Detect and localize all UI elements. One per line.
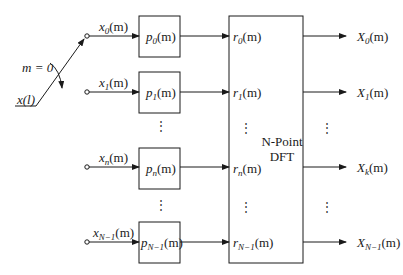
output-label-N-1: XN−1(m) (357, 236, 400, 254)
ellipsis-outputs-upper: ⋮ (321, 126, 327, 130)
switch-contact-n (85, 165, 89, 169)
ellipsis-filters-upper: ⋮ (155, 124, 161, 128)
dft-input-label-n: rn(m) (233, 162, 261, 180)
input-signal-label: x(l) (17, 93, 35, 106)
switch-contact-N-1 (85, 240, 89, 244)
filter-label-1: p1(m) (146, 86, 176, 104)
ellipsis-filters-lower: ⋮ (155, 203, 161, 207)
ellipsis-outputs-lower: ⋮ (321, 205, 327, 209)
dft-input-label-1: r1(m) (233, 86, 261, 104)
switch-position-label: m = 0 (22, 61, 53, 74)
diagram-canvas (0, 0, 403, 275)
branch-input-label-n: xn(m) (99, 151, 128, 169)
filter-label-n: pn(m) (146, 162, 176, 180)
branch-input-label-N-1: xN−1(m) (93, 226, 134, 244)
switch-contact-0 (85, 34, 89, 38)
branch-input-label-1: x1(m) (99, 76, 128, 94)
dft-title-line1: N-Point (252, 134, 312, 149)
filter-label-N-1: pN−1(m) (141, 236, 183, 254)
output-label-1: X1(m) (357, 86, 388, 104)
filter-label-0: p0(m) (146, 30, 176, 48)
branch-input-label-0: x0(m) (99, 20, 128, 38)
switch-contact-1 (85, 90, 89, 94)
ellipsis-dft-lower: ⋮ (240, 205, 246, 209)
output-label-k: Xk(m) (357, 161, 388, 179)
dft-input-label-N-1: rN−1(m) (233, 236, 273, 254)
dft-block-title: N-Point DFT (252, 134, 312, 164)
ellipsis-dft-upper: ⋮ (240, 126, 246, 130)
dft-input-label-0: r0(m) (233, 30, 261, 48)
output-label-0: X0(m) (357, 30, 388, 48)
dft-title-line2: DFT (252, 149, 312, 164)
